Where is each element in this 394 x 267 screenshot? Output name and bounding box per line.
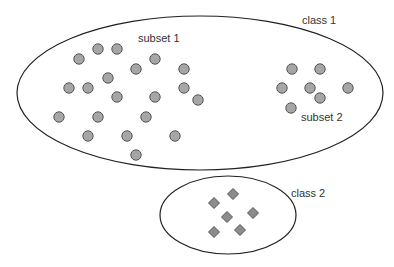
- circle-marker-icon: [131, 150, 141, 160]
- subset-1-points: [54, 44, 203, 160]
- set-diagram: class 1 subset 1 subset 2 class 2: [0, 0, 394, 267]
- subset-2-points: [277, 64, 353, 113]
- diamond-marker-icon: [235, 225, 246, 236]
- class-1-ellipse: [17, 16, 383, 170]
- circle-marker-icon: [277, 83, 287, 93]
- circle-marker-icon: [93, 44, 103, 54]
- class-2-label: class 2: [291, 187, 325, 199]
- circle-marker-icon: [54, 112, 64, 122]
- circle-marker-icon: [179, 83, 189, 93]
- class-1-label: class 1: [302, 14, 336, 26]
- circle-marker-icon: [315, 64, 325, 74]
- subset-1-label: subset 1: [138, 32, 180, 44]
- circle-marker-icon: [305, 83, 315, 93]
- circle-marker-icon: [170, 131, 180, 141]
- circle-marker-icon: [112, 92, 122, 102]
- circle-marker-icon: [103, 73, 113, 83]
- diamond-marker-icon: [209, 227, 220, 238]
- diamond-marker-icon: [222, 212, 233, 223]
- circle-marker-icon: [179, 64, 189, 74]
- circle-marker-icon: [343, 83, 353, 93]
- diamond-marker-icon: [228, 189, 239, 200]
- circle-marker-icon: [83, 131, 93, 141]
- subset-2-label: subset 2: [301, 111, 343, 123]
- circle-marker-icon: [287, 64, 297, 74]
- circle-marker-icon: [64, 83, 74, 93]
- circle-marker-icon: [112, 44, 122, 54]
- diamond-marker-icon: [209, 198, 220, 209]
- class-2-points: [209, 189, 259, 238]
- circle-marker-icon: [286, 103, 296, 113]
- circle-marker-icon: [131, 64, 141, 74]
- circle-marker-icon: [193, 95, 203, 105]
- circle-marker-icon: [74, 54, 84, 64]
- circle-marker-icon: [83, 83, 93, 93]
- circle-marker-icon: [141, 112, 151, 122]
- circle-marker-icon: [150, 92, 160, 102]
- diamond-marker-icon: [248, 208, 259, 219]
- circle-marker-icon: [150, 54, 160, 64]
- circle-marker-icon: [93, 112, 103, 122]
- circle-marker-icon: [315, 93, 325, 103]
- circle-marker-icon: [122, 131, 132, 141]
